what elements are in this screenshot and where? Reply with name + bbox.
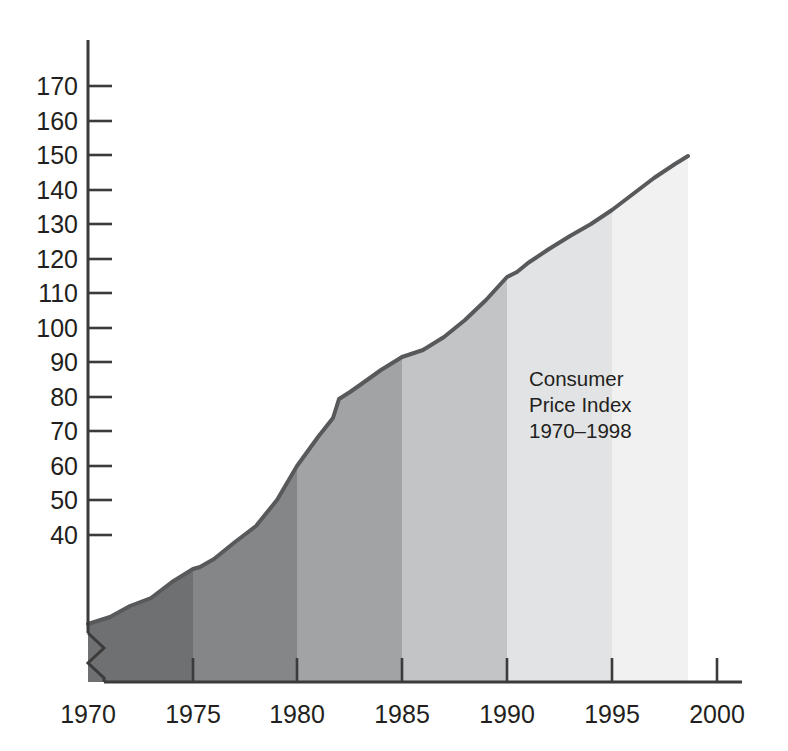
x-tick-label-1980: 1980 bbox=[269, 700, 325, 728]
x-tick-label-2000: 2000 bbox=[689, 700, 745, 728]
annotation-line-1: Consumer bbox=[529, 367, 624, 390]
annotation-line-2: Price Index bbox=[529, 393, 632, 416]
y-tick-label-160: 160 bbox=[36, 107, 78, 135]
y-tick-label-90: 90 bbox=[50, 348, 78, 376]
annotation-line-3: 1970–1998 bbox=[529, 419, 632, 442]
band-1970-1975 bbox=[88, 60, 193, 682]
y-tick-label-140: 140 bbox=[36, 176, 78, 204]
x-tick-labels-group: 1970 1975 1980 1985 1990 1995 2000 bbox=[60, 700, 745, 728]
y-tick-label-40: 40 bbox=[50, 521, 78, 549]
x-tick-label-1990: 1990 bbox=[479, 700, 535, 728]
y-tick-label-170: 170 bbox=[36, 72, 78, 100]
x-tick-label-1995: 1995 bbox=[584, 700, 640, 728]
y-tick-labels-group: 170 160 150 140 130 120 110 100 90 80 70… bbox=[36, 72, 78, 549]
y-tick-label-130: 130 bbox=[36, 210, 78, 238]
y-tick-label-120: 120 bbox=[36, 245, 78, 273]
y-tick-label-80: 80 bbox=[50, 383, 78, 411]
x-tick-label-1975: 1975 bbox=[165, 700, 221, 728]
y-tick-label-60: 60 bbox=[50, 452, 78, 480]
y-tick-label-110: 110 bbox=[38, 279, 78, 307]
cpi-area-chart: 170 160 150 140 130 120 110 100 90 80 70… bbox=[0, 0, 788, 751]
band-1980-1985 bbox=[297, 60, 402, 682]
y-tick-label-100: 100 bbox=[36, 314, 78, 342]
y-tick-label-70: 70 bbox=[50, 417, 78, 445]
y-tick-marks-group bbox=[88, 86, 112, 535]
chart-annotation: Consumer Price Index 1970–1998 bbox=[529, 367, 632, 442]
x-tick-label-1970: 1970 bbox=[60, 700, 116, 728]
chart-container: 170 160 150 140 130 120 110 100 90 80 70… bbox=[0, 0, 788, 751]
y-tick-label-50: 50 bbox=[50, 486, 78, 514]
band-1975-1980 bbox=[193, 60, 297, 682]
y-tick-label-150: 150 bbox=[36, 141, 78, 169]
x-tick-label-1985: 1985 bbox=[374, 700, 430, 728]
band-1985-1990 bbox=[402, 60, 507, 682]
band-1995-1998 bbox=[612, 60, 692, 682]
